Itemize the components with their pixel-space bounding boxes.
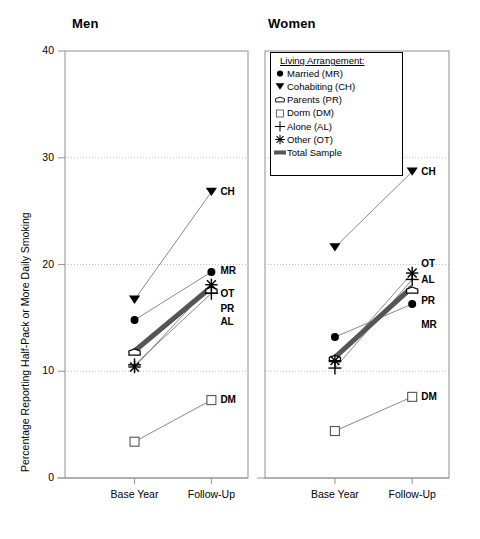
marker-asterisk-star (275, 135, 285, 145)
marker-open-house-pentagon (407, 287, 418, 293)
end-label-ot: OT (220, 288, 234, 299)
series-line-ch (135, 192, 212, 300)
marker-filled-down-triangle (129, 296, 140, 304)
legend-item-label: Alone (AL) (287, 122, 332, 132)
legend-item-ts: Total Sample (271, 146, 402, 159)
end-label-mr: MR (220, 265, 236, 276)
plus-cross-icon (273, 120, 287, 133)
marker-filled-down-triangle (206, 188, 217, 196)
series-line-ts (335, 287, 412, 357)
marker-open-house-pentagon (129, 349, 140, 355)
end-label-al: AL (220, 316, 233, 327)
legend-item-dm: Dorm (DM) (271, 107, 402, 120)
legend-item-label: Other (OT) (287, 135, 333, 145)
figure-root: Men Women Percentage Reporting Half-Pack… (0, 0, 480, 539)
legend-item-label: Dorm (DM) (287, 108, 334, 118)
end-label-ch: CH (220, 186, 234, 197)
marker-filled-down-triangle (276, 84, 285, 91)
legend-item-label: Cohabiting (CH) (287, 82, 355, 92)
series-line-ts (135, 287, 212, 351)
marker-filled-down-triangle (329, 243, 340, 251)
marker-asterisk-star (406, 267, 418, 279)
thick-bar-icon (273, 146, 287, 159)
marker-filled-circle (131, 316, 139, 324)
filled-down-triangle-icon (273, 80, 287, 93)
marker-asterisk-star (128, 361, 140, 373)
marker-filled-down-triangle (407, 167, 418, 175)
marker-filled-circle (331, 333, 339, 341)
filled-circle-icon (273, 67, 287, 80)
legend-item-ch: Cohabiting (CH) (271, 80, 402, 93)
asterisk-star-icon (273, 133, 287, 146)
marker-plus-cross (275, 121, 285, 131)
legend-item-label: Married (MR) (287, 69, 343, 79)
end-label-ot: OT (421, 258, 435, 269)
end-label-pr: PR (220, 303, 234, 314)
end-label-al: AL (421, 274, 434, 285)
end-label-mr: MR (421, 319, 437, 330)
end-label-pr: PR (421, 295, 435, 306)
marker-asterisk-star (329, 354, 341, 366)
series-line-dm (135, 400, 212, 442)
end-label-dm: DM (220, 394, 236, 405)
legend-item-al: Alone (AL) (271, 120, 402, 133)
open-square-icon (273, 107, 287, 120)
legend-item-mr: Married (MR) (271, 67, 402, 80)
marker-open-square (276, 110, 283, 117)
marker-open-square (408, 392, 417, 401)
marker-open-square (330, 427, 339, 436)
legend-items: Married (MR)Cohabiting (CH)Parents (PR)D… (271, 67, 402, 159)
end-label-ch: CH (421, 166, 435, 177)
series-line-ch (335, 172, 412, 248)
marker-asterisk-star (205, 279, 217, 291)
marker-open-square (207, 396, 216, 405)
marker-filled-circle (207, 268, 215, 276)
legend: Living Arrangement: Married (MR)Cohabiti… (270, 52, 403, 176)
marker-open-house-pentagon (276, 98, 285, 103)
legend-item-label: Parents (PR) (287, 95, 342, 105)
marker-open-square (130, 437, 139, 446)
legend-item-pr: Parents (PR) (271, 93, 402, 106)
open-house-pentagon-icon (273, 93, 287, 106)
end-label-dm: DM (421, 391, 437, 402)
marker-filled-circle (408, 300, 416, 308)
marker-thick-bar (274, 151, 286, 155)
legend-item-ot: Other (OT) (271, 133, 402, 146)
legend-title: Living Arrangement: (280, 55, 402, 66)
marker-filled-circle (277, 70, 283, 76)
plot-canvas (0, 0, 480, 539)
legend-item-label: Total Sample (287, 148, 342, 158)
series-line-dm (335, 397, 412, 431)
